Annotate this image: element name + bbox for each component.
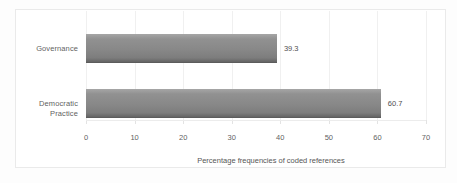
gridline — [426, 11, 427, 120]
x-axis-line — [86, 120, 426, 121]
bar-governance — [86, 34, 277, 63]
category-label: Governance — [16, 44, 78, 54]
bar-chart: 010203040506070Governance39.3Democratic … — [15, 9, 446, 168]
x-tick-label: 70 — [414, 133, 438, 143]
x-tick-label: 50 — [317, 133, 341, 143]
document-page: 010203040506070Governance39.3Democratic … — [0, 0, 457, 183]
x-tick-label: 10 — [123, 133, 147, 143]
x-axis-title: Percentage frequencies of coded referenc… — [131, 156, 411, 166]
data-label: 39.3 — [284, 44, 299, 54]
x-tick-label: 40 — [268, 133, 292, 143]
x-axis-tick — [426, 120, 427, 124]
x-tick-label: 60 — [365, 133, 389, 143]
category-label: Democratic Practice — [16, 99, 78, 119]
data-label: 60.7 — [388, 99, 403, 109]
x-tick-label: 30 — [220, 133, 244, 143]
x-tick-label: 0 — [74, 133, 98, 143]
x-tick-label: 20 — [171, 133, 195, 143]
bar-democratic-practice — [86, 89, 381, 118]
